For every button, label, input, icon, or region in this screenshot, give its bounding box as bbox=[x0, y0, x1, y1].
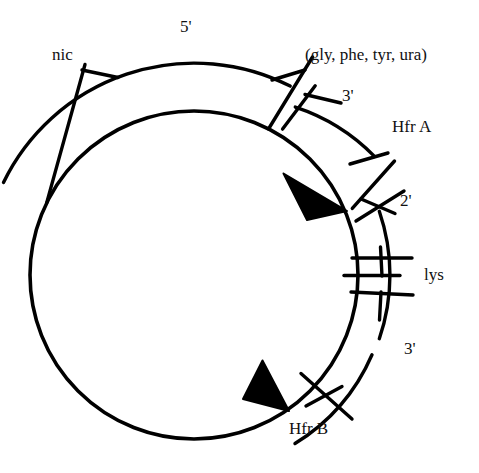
label-five-prime: 5' bbox=[180, 18, 192, 35]
chromosome-svg bbox=[0, 0, 479, 473]
label-two-prime: 2' bbox=[400, 192, 412, 209]
lys-lower-tick bbox=[380, 292, 382, 320]
label-hfr-b: Hfr B bbox=[289, 420, 328, 437]
three-prime-upper-arc bbox=[295, 107, 374, 156]
chromosome-circle bbox=[30, 111, 358, 439]
hfra-crossbar bbox=[350, 153, 388, 164]
diagram-canvas: nic 5' (gly, phe, tyr, ura) 3' Hfr A 2' … bbox=[0, 0, 479, 473]
hfra-start-crossbar bbox=[305, 95, 341, 104]
lys-upper-tick bbox=[381, 247, 383, 276]
five-prime-arc bbox=[4, 63, 291, 182]
label-gene-set: (gly, phe, tyr, ura) bbox=[305, 46, 427, 63]
hfra-start-tick bbox=[283, 86, 316, 129]
label-lys: lys bbox=[424, 266, 444, 283]
label-three-prime-upper: 3' bbox=[342, 87, 354, 104]
lys-lower-crossbar bbox=[351, 292, 413, 295]
label-hfr-a: Hfr A bbox=[392, 118, 431, 135]
nic-crossbar bbox=[82, 70, 118, 78]
label-three-prime-lower: 3' bbox=[404, 340, 416, 357]
nic-tick bbox=[47, 65, 85, 204]
label-nic: nic bbox=[52, 46, 73, 63]
hfr-b-arrowhead bbox=[243, 361, 289, 412]
